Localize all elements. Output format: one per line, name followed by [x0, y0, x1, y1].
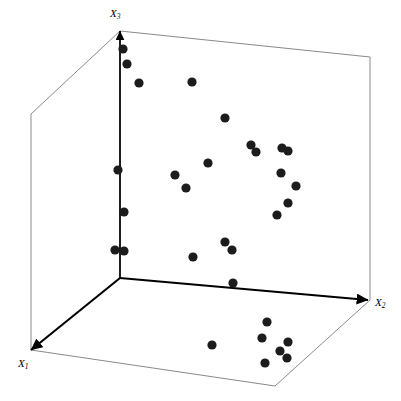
data-points-group: [110, 44, 300, 367]
data-point: [227, 245, 236, 254]
data-point: [134, 78, 143, 87]
data-point: [187, 77, 196, 86]
data-point: [291, 181, 300, 190]
data-point: [181, 183, 190, 192]
data-point: [257, 333, 266, 342]
axis-label-x3: X3: [110, 8, 120, 19]
data-point: [283, 337, 292, 346]
axis-label-x3-subscript: 3: [117, 12, 121, 21]
data-point: [220, 237, 229, 246]
data-point: [272, 210, 281, 219]
data-point: [110, 245, 119, 254]
data-point: [282, 353, 291, 362]
box-frame: [31, 31, 370, 386]
axes-group: [31, 31, 368, 350]
axis-x1: [31, 278, 120, 350]
data-point: [283, 198, 292, 207]
data-point: [262, 317, 271, 326]
data-point: [119, 246, 128, 255]
scatter-plot-3d: X1 X2 X3: [0, 0, 401, 401]
data-point: [113, 165, 122, 174]
data-point: [118, 44, 127, 53]
data-point: [207, 340, 216, 349]
axis-label-x2-subscript: 2: [382, 301, 386, 310]
axis-x2: [120, 278, 368, 300]
data-point: [228, 278, 237, 287]
box-edge-top-back-right: [120, 31, 370, 57]
data-point: [251, 147, 260, 156]
axis-label-x1-text: X: [18, 357, 25, 369]
data-point: [203, 158, 212, 167]
axis-label-x3-text: X: [110, 7, 117, 19]
axis-label-x1: X1: [18, 358, 28, 369]
floor-edge-front-left: [31, 350, 275, 386]
data-point: [283, 146, 292, 155]
axis-label-x2-text: X: [375, 296, 382, 308]
axis-label-x1-subscript: 1: [25, 362, 29, 371]
data-point: [188, 252, 197, 261]
data-point: [275, 346, 284, 355]
data-point: [122, 59, 131, 68]
plot-canvas: [0, 0, 401, 401]
data-point: [260, 358, 269, 367]
data-point: [119, 207, 128, 216]
axis-label-x2: X2: [375, 297, 385, 308]
data-point: [170, 170, 179, 179]
box-edge-top-back-left: [31, 31, 120, 114]
data-point: [276, 168, 285, 177]
data-point: [220, 113, 229, 122]
